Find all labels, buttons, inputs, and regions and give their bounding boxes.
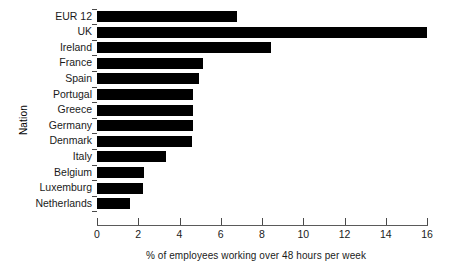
- x-axis-tick: [303, 218, 304, 225]
- y-axis-tick-label: Netherlands: [0, 198, 92, 209]
- bar: [97, 136, 192, 147]
- x-axis-tick: [180, 218, 181, 225]
- plot-area: [97, 11, 427, 218]
- bar: [97, 167, 144, 178]
- x-axis-ticks: [0, 218, 452, 226]
- y-axis-tick-label: Ireland: [0, 42, 92, 53]
- bar: [97, 73, 199, 84]
- bar: [97, 58, 203, 69]
- y-axis-tick-label: Denmark: [0, 135, 92, 146]
- y-axis-tick-label: EUR 12: [0, 11, 92, 22]
- y-axis-tick-label: Spain: [0, 73, 92, 84]
- bar: [97, 120, 193, 131]
- bar: [97, 105, 193, 116]
- x-axis-tick: [221, 218, 222, 225]
- x-axis-tick: [386, 218, 387, 225]
- y-axis-tick-label: Portugal: [0, 89, 92, 100]
- x-axis-tick-label: 2: [123, 228, 153, 241]
- x-axis-tick-label: 12: [330, 228, 360, 241]
- bar-chart: Nation EUR 12UKIrelandFranceSpainPortuga…: [0, 0, 452, 276]
- y-axis-tick-label: Italy: [0, 151, 92, 162]
- y-axis-tick-label: France: [0, 57, 92, 68]
- bar: [97, 89, 193, 100]
- x-axis-tick-label: 6: [206, 228, 236, 241]
- x-axis-tick: [427, 218, 428, 225]
- x-axis-tick: [262, 218, 263, 225]
- bar: [97, 151, 166, 162]
- x-axis-tick-label: 4: [165, 228, 195, 241]
- x-axis-tick-label: 0: [82, 228, 112, 241]
- y-axis-tick: [92, 9, 97, 10]
- y-axis-tick-label: Luxemburg: [0, 182, 92, 193]
- x-axis-tick: [97, 218, 98, 225]
- y-axis-tick-label: Greece: [0, 104, 92, 115]
- x-axis-tick-labels: 0246810121416: [0, 228, 452, 242]
- y-axis-tick-label: UK: [0, 26, 92, 37]
- y-axis-tick-label: Belgium: [0, 167, 92, 178]
- y-axis-tick-labels: EUR 12UKIrelandFranceSpainPortugalGreece…: [0, 11, 92, 218]
- y-axis-tick-label: Germany: [0, 120, 92, 131]
- bar: [97, 198, 130, 209]
- bar: [97, 11, 237, 22]
- x-axis-tick-label: 8: [247, 228, 277, 241]
- x-axis-tick: [345, 218, 346, 225]
- x-axis-tick-label: 14: [371, 228, 401, 241]
- x-axis-tick-label: 16: [412, 228, 442, 241]
- x-axis-tick-label: 10: [288, 228, 318, 241]
- bar: [97, 42, 271, 53]
- x-axis-tick: [138, 218, 139, 225]
- x-axis-title: % of employees working over 48 hours per…: [60, 250, 452, 261]
- bar: [97, 183, 143, 194]
- bar: [97, 27, 427, 38]
